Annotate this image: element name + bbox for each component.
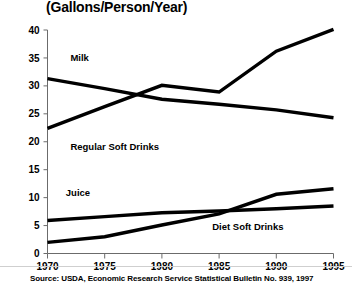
footer-divider bbox=[0, 266, 352, 267]
y-axis-tick-label: 40 bbox=[28, 25, 40, 36]
series-label-milk: Milk bbox=[70, 52, 89, 63]
y-axis-tick-label: 5 bbox=[34, 220, 40, 231]
series-line-diet-soft-drinks bbox=[48, 189, 334, 243]
y-axis-tick-label: 25 bbox=[28, 108, 40, 119]
y-axis-tick-label: 20 bbox=[28, 136, 40, 147]
y-axis-tick-label: 30 bbox=[28, 80, 40, 91]
y-axis-tick-label: 35 bbox=[28, 53, 40, 64]
source-note: Source: USDA, Economic Research Service … bbox=[30, 274, 313, 283]
series-label-regular-soft-drinks: Regular Soft Drinks bbox=[70, 141, 159, 152]
beverage-consumption-chart: (Gallons/Person/Year) 0510152025303540 1… bbox=[0, 0, 352, 289]
series-label-juice: Juice bbox=[66, 187, 90, 198]
y-axis-tick-label: 15 bbox=[28, 164, 40, 175]
series-labels: MilkRegular Soft DrinksJuiceDiet Soft Dr… bbox=[66, 52, 284, 232]
y-axis-tick-label: 0 bbox=[34, 248, 40, 259]
chart-plot-area: 0510152025303540 19701975198019851990199… bbox=[0, 0, 352, 270]
y-axis-tick-label: 10 bbox=[28, 192, 40, 203]
series-lines bbox=[48, 29, 334, 242]
y-axis: 0510152025303540 bbox=[28, 25, 47, 260]
series-label-diet-soft-drinks: Diet Soft Drinks bbox=[212, 221, 283, 232]
x-axis: 197019751980198519901995 bbox=[36, 254, 345, 271]
